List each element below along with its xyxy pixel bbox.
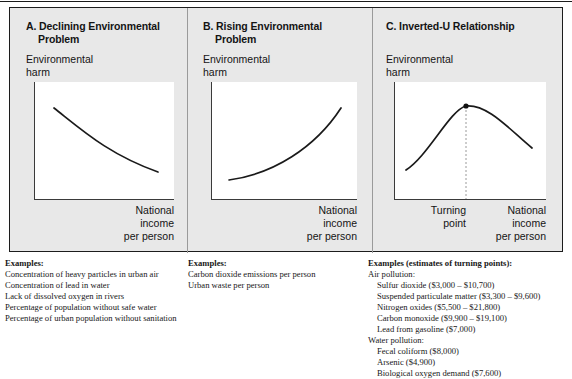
panel-b-ylabel-line2: harm [203, 66, 227, 78]
examples-c-air-item: Lead from gasoline ($7,000) [368, 324, 572, 335]
panel-c-turning-line1: Turning [431, 204, 466, 216]
panel-a-ylabel-line2: harm [26, 66, 50, 78]
panel-c-xlabel-line2: income [512, 217, 546, 229]
examples-a-item: Percentage of urban population without s… [5, 313, 195, 324]
panel-b-x-axis-label: National income per person [248, 204, 357, 243]
examples-column-a: Examples: Concentration of heavy particl… [5, 258, 195, 324]
panel-a-x-axis-label: National income per person [70, 204, 174, 243]
panel-c-turning-line2: point [443, 217, 466, 229]
panel-a-xlabel-line1: National [135, 204, 174, 216]
examples-a-item: Percentage of population without safe wa… [5, 302, 195, 313]
examples-c-group-water-label: Water pollution: [368, 335, 572, 346]
panel-a-ylabel-line1: Environmental [26, 53, 93, 65]
panel-b-xlabel-line1: National [318, 204, 357, 216]
examples-a-item: Lack of dissolved oxygen in rivers [5, 291, 195, 302]
panel-b: B. Rising Environmental Problem Environm… [188, 8, 372, 253]
panel-c: C. Inverted-U Relationship Environmental… [373, 8, 564, 253]
panel-a: A. Declining Environmental Problem Envir… [10, 8, 187, 253]
panel-b-xlabel-line3: per person [307, 230, 357, 242]
panel-a-title-line2: Problem [26, 33, 176, 46]
panel-c-ylabel-line1: Environmental [386, 53, 453, 65]
examples-c-group-air-label: Air pollution: [368, 269, 572, 280]
panel-a-xlabel-line3: per person [124, 230, 174, 242]
panel-a-title: A. Declining Environmental Problem [26, 20, 176, 45]
panel-c-xlabel-line1: National [507, 204, 546, 216]
panel-a-plot-area [34, 82, 174, 200]
panel-b-title-line1: B. Rising Environmental [203, 20, 322, 32]
panel-b-y-axis-label: Environmental harm [203, 53, 270, 79]
examples-c-water-item: Biological oxygen demand ($7,600) [368, 368, 572, 379]
examples-c-air-item: Suspended particulate matter ($3,300 – $… [368, 291, 572, 302]
examples-column-b: Examples: Carbon dioxide emissions per p… [188, 258, 368, 291]
examples-c-heading: Examples (estimates of turning points): [368, 258, 572, 269]
panel-b-title: B. Rising Environmental Problem [203, 20, 358, 45]
panel-c-title: C. Inverted-U Relationship [386, 20, 561, 33]
panel-b-title-line2: Problem [203, 33, 358, 46]
panel-a-curve-svg [34, 82, 174, 200]
examples-b-item: Urban waste per person [188, 280, 368, 291]
examples-c-water-item: Fecal coliform ($8,000) [368, 346, 572, 357]
panel-c-x-axis-label: National income per person [471, 204, 546, 243]
panel-c-turning-point-label: Turning point [398, 204, 466, 230]
examples-c-air-item: Sulfur dioxide ($3,000 – $10,700) [368, 280, 572, 291]
examples-c-air-item: Carbon monoxide ($9,900 – $19,100) [368, 313, 572, 324]
examples-c-air-item: Nitrogen oxides ($5,500 – $21,800) [368, 302, 572, 313]
panel-b-curve-svg [211, 82, 357, 200]
examples-column-c: Examples (estimates of turning points): … [368, 258, 572, 379]
panel-c-curve-svg [394, 82, 546, 200]
panel-a-title-line1: A. Declining Environmental [26, 20, 160, 32]
top-rule [0, 1, 572, 2]
examples-a-item: Concentration of heavy particles in urba… [5, 269, 195, 280]
panel-c-plot-area [394, 82, 546, 200]
panel-b-plot-area [211, 82, 357, 200]
examples-b-item: Carbon dioxide emissions per person [188, 269, 368, 280]
panel-a-y-axis-label: Environmental harm [26, 53, 93, 79]
examples-b-heading: Examples: [188, 258, 368, 269]
charts-panel-box: A. Declining Environmental Problem Envir… [9, 7, 563, 252]
panel-b-xlabel-line2: income [323, 217, 357, 229]
examples-a-heading: Examples: [5, 258, 195, 269]
examples-a-item: Concentration of lead in water [5, 280, 195, 291]
panel-c-xlabel-line3: per person [496, 230, 546, 242]
panel-c-y-axis-label: Environmental harm [386, 53, 453, 79]
panel-c-title-line1: C. Inverted-U Relationship [386, 20, 515, 32]
panel-a-xlabel-line2: income [140, 217, 174, 229]
examples-c-water-item: Arsenic ($4,900) [368, 357, 572, 368]
panel-c-ylabel-line2: harm [386, 66, 410, 78]
turning-point-marker [463, 103, 468, 108]
panel-b-ylabel-line1: Environmental [203, 53, 270, 65]
